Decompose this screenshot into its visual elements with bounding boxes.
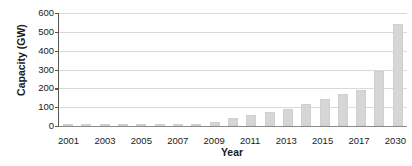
bar-slot	[297, 13, 315, 126]
y-tick-label: 0	[26, 121, 54, 131]
bar[interactable]	[338, 94, 348, 126]
y-tick-label: 600	[26, 8, 54, 18]
bar-slot	[260, 13, 278, 126]
bar[interactable]	[374, 71, 384, 126]
bar[interactable]	[265, 112, 275, 126]
x-tick-label: 2015	[312, 135, 333, 146]
bar-slot	[370, 13, 388, 126]
bar[interactable]	[191, 124, 201, 126]
bar[interactable]	[320, 99, 330, 126]
bar[interactable]	[173, 124, 183, 126]
x-tick-label: 2007	[167, 135, 188, 146]
bar[interactable]	[246, 115, 256, 126]
bar[interactable]	[118, 124, 128, 126]
bar[interactable]	[210, 122, 220, 126]
bar-slot	[132, 13, 150, 126]
y-tick-label: 500	[26, 27, 54, 37]
bar-slot	[389, 13, 407, 126]
bar[interactable]	[63, 124, 73, 126]
bar[interactable]	[283, 109, 293, 126]
y-tick-label: 300	[26, 65, 54, 75]
bar-slot	[206, 13, 224, 126]
bar-slot	[114, 13, 132, 126]
bar-slot	[352, 13, 370, 126]
bars-layer	[59, 13, 407, 126]
bar-slot	[169, 13, 187, 126]
x-tick-label: 2003	[94, 135, 115, 146]
x-tick-label: 2009	[204, 135, 225, 146]
bar[interactable]	[228, 118, 238, 126]
bar-slot	[96, 13, 114, 126]
x-tick-label: 2017	[348, 135, 369, 146]
x-tick-label: 2001	[58, 135, 79, 146]
plot-area	[58, 13, 407, 127]
bar[interactable]	[356, 90, 366, 126]
y-tick-label: 200	[26, 84, 54, 94]
bar[interactable]	[301, 104, 311, 126]
x-axis-title: Year	[58, 146, 406, 158]
bar[interactable]	[155, 124, 165, 126]
bar-slot	[151, 13, 169, 126]
bar-slot	[187, 13, 205, 126]
x-tick-label: 2013	[276, 135, 297, 146]
bar[interactable]	[100, 124, 110, 126]
y-tick-label: 100	[26, 102, 54, 112]
y-tick-label: 400	[26, 46, 54, 56]
y-axis-tick-labels: 0100200300400500600	[26, 8, 54, 128]
bar-chart-figure: Capacity (GW) 0100200300400500600 200120…	[0, 0, 412, 166]
bar-slot	[334, 13, 352, 126]
bar-slot	[242, 13, 260, 126]
bar[interactable]	[393, 24, 403, 126]
x-tick-label: 2005	[131, 135, 152, 146]
y-tickmark	[55, 126, 59, 127]
bar[interactable]	[136, 124, 146, 126]
bar-slot	[224, 13, 242, 126]
bar-slot	[315, 13, 333, 126]
bar-slot	[59, 13, 77, 126]
bar-slot	[77, 13, 95, 126]
bar-slot	[279, 13, 297, 126]
bar[interactable]	[81, 124, 91, 126]
x-axis-tick-labels: 2001200320052007200920112013201520172030	[58, 130, 406, 144]
x-tick-label: 2030	[385, 135, 406, 146]
x-tick-label: 2011	[240, 135, 260, 146]
